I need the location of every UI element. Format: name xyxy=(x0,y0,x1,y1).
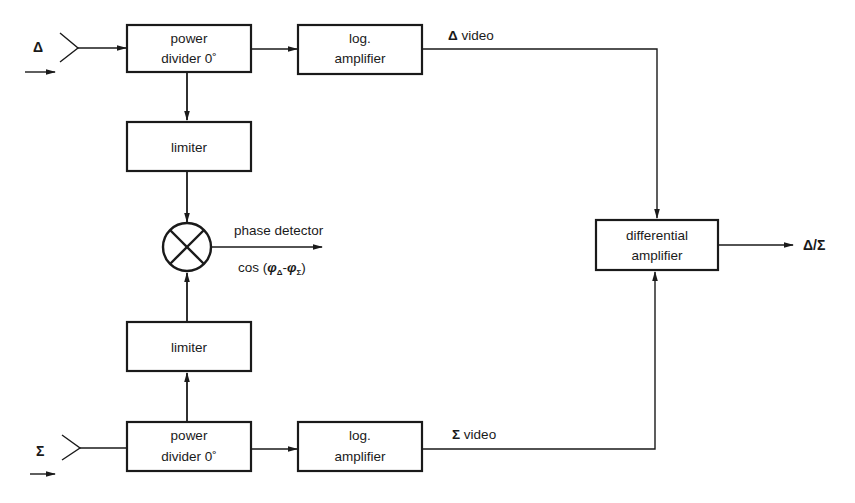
sigma-video-wire xyxy=(422,272,655,449)
svg-text:log.: log. xyxy=(349,428,371,443)
svg-text:amplifier: amplifier xyxy=(334,449,386,464)
log-amplifier-top: log. amplifier xyxy=(298,25,422,74)
log-amplifier-bottom: log. amplifier xyxy=(298,422,422,471)
monopulse-block-diagram: Δ power divider 0˚ log. amplifier Δ vide… xyxy=(0,0,855,503)
svg-text:limiter: limiter xyxy=(171,340,208,355)
phase-detector-label: phase detector xyxy=(234,223,324,238)
delta-input: Δ xyxy=(25,33,126,72)
svg-text:amplifier: amplifier xyxy=(631,248,683,263)
svg-text:amplifier: amplifier xyxy=(334,51,386,66)
power-divider-bottom: power divider 0˚ xyxy=(127,422,251,471)
svg-text:power: power xyxy=(171,31,208,46)
phase-detector-mixer xyxy=(163,223,211,271)
delta-video-label: Δ video xyxy=(448,28,494,43)
sigma-input: Σ xyxy=(30,435,127,474)
limiter-bottom: limiter xyxy=(127,322,251,371)
output-label: Δ/Σ xyxy=(803,237,825,253)
differential-amplifier: differential amplifier xyxy=(596,220,718,270)
sigma-antenna-icon xyxy=(62,435,80,460)
svg-text:differential: differential xyxy=(626,228,688,243)
delta-video-wire xyxy=(422,49,657,218)
sigma-video-label: Σ video xyxy=(452,427,496,442)
phase-formula: cos (φΔ-φΣ) xyxy=(238,260,306,277)
delta-antenna-icon xyxy=(60,33,78,62)
svg-text:divider 0˚: divider 0˚ xyxy=(161,449,217,464)
svg-text:limiter: limiter xyxy=(171,140,208,155)
svg-text:power: power xyxy=(171,428,208,443)
svg-text:log.: log. xyxy=(349,31,371,46)
sigma-input-label: Σ xyxy=(36,443,44,459)
svg-text:divider 0˚: divider 0˚ xyxy=(161,51,217,66)
delta-input-label: Δ xyxy=(33,39,43,55)
power-divider-top: power divider 0˚ xyxy=(127,25,251,72)
limiter-top: limiter xyxy=(127,122,251,171)
